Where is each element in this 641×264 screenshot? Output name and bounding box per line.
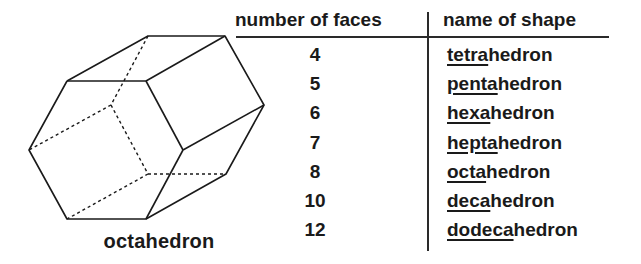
- faces-value: 5: [240, 73, 390, 95]
- shape-name: dodecahedron: [447, 219, 578, 241]
- column-divider: [427, 12, 429, 251]
- name-suffix: hedron: [488, 44, 552, 65]
- name-suffix: hedron: [490, 102, 554, 123]
- name-suffix: hedron: [486, 161, 550, 182]
- shape-name: decahedron: [447, 190, 555, 212]
- faces-value: 7: [240, 132, 390, 154]
- name-suffix: hedron: [498, 132, 562, 153]
- name-prefix: tetra: [447, 44, 488, 65]
- header-name-of-shape: name of shape: [443, 9, 576, 31]
- faces-value: 10: [240, 190, 390, 212]
- name-suffix: hedron: [498, 73, 562, 94]
- name-prefix: hexa: [447, 102, 490, 123]
- shape-name: tetrahedron: [447, 44, 553, 66]
- shape-name: pentahedron: [447, 73, 562, 95]
- name-prefix: penta: [447, 73, 498, 94]
- name-prefix: hepta: [447, 132, 498, 153]
- shape-name: heptahedron: [447, 132, 562, 154]
- name-prefix: deca: [447, 190, 490, 211]
- faces-value: 4: [240, 44, 390, 66]
- name-prefix: octa: [447, 161, 486, 182]
- name-prefix: dodeca: [447, 219, 514, 240]
- header-divider: [236, 36, 609, 38]
- shape-name: octahedron: [447, 161, 550, 183]
- header-number-of-faces: number of faces: [235, 9, 382, 31]
- faces-value: 6: [240, 102, 390, 124]
- shape-name: hexahedron: [447, 102, 555, 124]
- faces-value: 12: [240, 219, 390, 241]
- name-suffix: hedron: [490, 190, 554, 211]
- name-suffix: hedron: [514, 219, 578, 240]
- faces-value: 8: [240, 161, 390, 183]
- shape-caption: octahedron: [95, 230, 223, 253]
